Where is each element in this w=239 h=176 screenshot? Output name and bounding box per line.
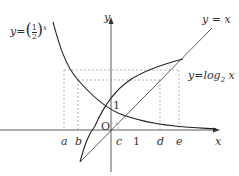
label-c: c: [116, 136, 122, 147]
label-a: a: [61, 136, 68, 147]
label-e: e: [176, 136, 183, 147]
function-diagram: y=(12)x y = x y=log2 x y x O 1 1 a b c d…: [0, 0, 239, 176]
log-text: y=log: [188, 69, 221, 82]
label-logarithm: y=log2 x: [188, 70, 235, 84]
label-b: b: [75, 136, 82, 147]
label-line: y = x: [202, 14, 231, 25]
label-exponential: y=(12)x: [10, 22, 47, 41]
exp-prefix: y=: [10, 25, 25, 38]
exp-power: x: [43, 24, 47, 32]
log-arg: x: [225, 69, 235, 82]
label-origin: O: [101, 121, 110, 132]
label-x-axis: x: [215, 136, 221, 147]
label-one-y: 1: [113, 100, 120, 111]
label-y-axis: y: [104, 12, 110, 23]
label-d: d: [157, 136, 164, 147]
line-y-equals-x: [81, 28, 212, 161]
label-one-x: 1: [133, 136, 140, 147]
x-axis-arrow-icon: [213, 128, 220, 133]
